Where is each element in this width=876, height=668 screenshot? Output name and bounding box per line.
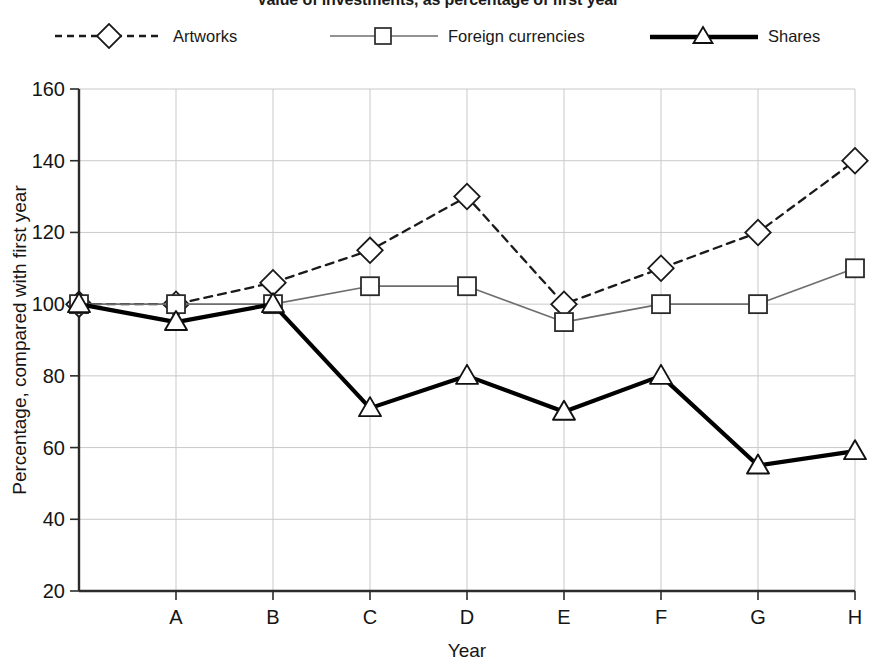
y-tick-label: 140 [32, 150, 65, 172]
x-tick-label: E [557, 606, 570, 628]
triangle-marker [650, 365, 672, 384]
triangle-marker [456, 365, 478, 384]
y-tick-label: 20 [43, 580, 65, 602]
square-marker [361, 277, 379, 295]
square-marker [846, 259, 864, 277]
x-tick-label: G [750, 606, 766, 628]
chart-plot-svg: 20406080100120140160ABCDEFGHYearPercenta… [0, 0, 876, 668]
diamond-marker [745, 220, 770, 245]
square-marker [749, 295, 767, 313]
x-tick-label: B [266, 606, 279, 628]
x-tick-label: A [169, 606, 183, 628]
y-tick-label: 40 [43, 508, 65, 530]
triangle-marker [844, 440, 866, 459]
diamond-marker [842, 148, 867, 173]
x-tick-label: C [363, 606, 377, 628]
plot-area: 20406080100120140160ABCDEFGHYearPercenta… [0, 0, 876, 668]
x-tick-label: H [848, 606, 862, 628]
axis-lines [70, 89, 855, 600]
x-axis-title: Year [448, 640, 487, 661]
x-tick-label: F [655, 606, 667, 628]
y-tick-label: 120 [32, 221, 65, 243]
y-axis-title: Percentage, compared with first year [9, 185, 30, 495]
grid-lines [79, 89, 855, 591]
x-tick-label: D [460, 606, 474, 628]
y-tick-label: 160 [32, 78, 65, 100]
y-tick-label: 100 [32, 293, 65, 315]
diamond-marker [260, 270, 285, 295]
y-tick-label: 80 [43, 365, 65, 387]
square-marker [555, 313, 573, 331]
diamond-marker [357, 238, 382, 263]
square-marker [652, 295, 670, 313]
square-marker [458, 277, 476, 295]
chart-page: Value of investments, as percentage of f… [0, 0, 876, 668]
y-tick-label: 60 [43, 437, 65, 459]
diamond-marker [648, 256, 673, 281]
